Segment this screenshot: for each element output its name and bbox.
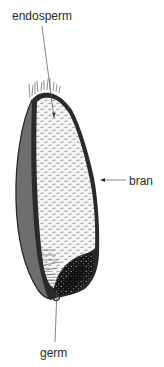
bran-label: bran [129, 175, 153, 187]
germ-label: germ [40, 347, 67, 359]
bran-arrowhead [100, 178, 105, 182]
endosperm-label: endosperm [12, 10, 72, 22]
